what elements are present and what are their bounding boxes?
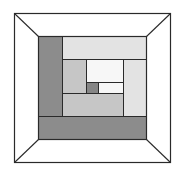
inner-bottom-medium-strip (63, 94, 124, 117)
center-square (87, 83, 99, 94)
inner-right-white-strip (99, 83, 124, 94)
corner-line-1 (147, 14, 171, 37)
quilt-diagram (0, 0, 182, 176)
right-light-strip (124, 60, 147, 117)
corner-line-3 (147, 140, 171, 163)
quilt-block-svg (0, 0, 182, 176)
patch-layer (39, 37, 147, 140)
bottom-dark-strip (39, 117, 147, 140)
left-dark-strip (39, 37, 63, 117)
corner-line-2 (15, 140, 39, 163)
inner-left-medium-strip (63, 60, 87, 94)
top-light-strip (63, 37, 147, 60)
inner-top-white-strip (87, 60, 124, 83)
corner-line-0 (15, 14, 39, 37)
